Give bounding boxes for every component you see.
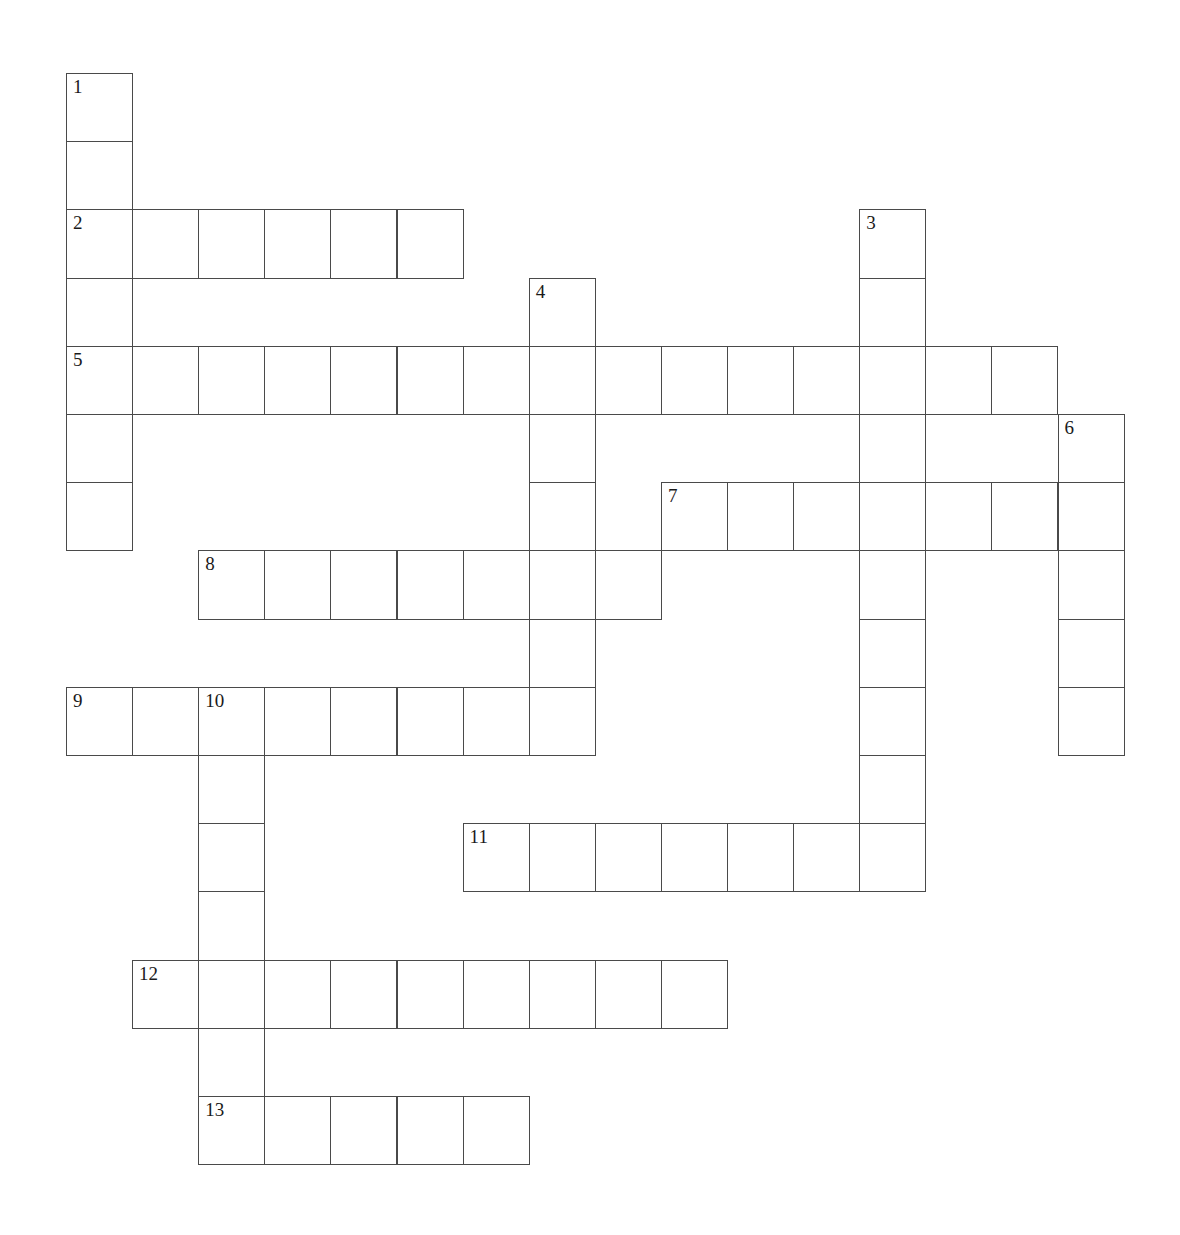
crossword-cell[interactable]	[264, 687, 331, 756]
crossword-cell[interactable]: 4	[529, 278, 596, 347]
cell-number: 6	[1065, 418, 1075, 437]
crossword-cell[interactable]	[330, 960, 397, 1029]
crossword-cell[interactable]: 1	[66, 73, 133, 142]
crossword-cell[interactable]	[661, 960, 728, 1029]
crossword-cell[interactable]	[1058, 687, 1125, 756]
crossword-cell[interactable]	[66, 278, 133, 347]
crossword-cell[interactable]	[66, 414, 133, 483]
crossword-cell[interactable]: 10	[198, 687, 265, 756]
crossword-cell[interactable]	[595, 346, 662, 415]
crossword-cell[interactable]	[397, 550, 464, 619]
crossword-cell[interactable]: 9	[66, 687, 133, 756]
crossword-cell[interactable]	[264, 550, 331, 619]
crossword-cell[interactable]	[264, 960, 331, 1029]
cell-number: 12	[139, 964, 158, 983]
crossword-cell[interactable]	[463, 550, 530, 619]
crossword-cell[interactable]	[397, 346, 464, 415]
crossword-cell[interactable]	[198, 960, 265, 1029]
crossword-cell[interactable]	[463, 1096, 530, 1165]
crossword-cell[interactable]	[991, 482, 1058, 551]
crossword-cell[interactable]	[529, 346, 596, 415]
crossword-cell[interactable]	[264, 209, 331, 278]
cell-number: 4	[536, 282, 546, 301]
crossword-cell[interactable]	[859, 278, 926, 347]
crossword-cell[interactable]	[330, 550, 397, 619]
cell-number: 7	[668, 486, 678, 505]
crossword-cell[interactable]	[859, 687, 926, 756]
crossword-cell[interactable]: 7	[661, 482, 728, 551]
cell-number: 9	[73, 691, 83, 710]
crossword-cell[interactable]	[132, 687, 199, 756]
crossword-cell[interactable]	[859, 482, 926, 551]
crossword-cell[interactable]	[793, 823, 860, 892]
crossword-cell[interactable]: 13	[198, 1096, 265, 1165]
crossword-cell[interactable]	[264, 346, 331, 415]
crossword-cell[interactable]	[198, 209, 265, 278]
crossword-cell[interactable]	[1058, 482, 1125, 551]
crossword-cell[interactable]	[1058, 550, 1125, 619]
crossword-cell[interactable]	[132, 346, 199, 415]
crossword-cell[interactable]	[198, 891, 265, 960]
crossword-cell[interactable]	[397, 1096, 464, 1165]
crossword-cell[interactable]: 6	[1058, 414, 1125, 483]
crossword-cell[interactable]	[859, 619, 926, 688]
crossword-cell[interactable]: 5	[66, 346, 133, 415]
crossword-cell[interactable]	[859, 550, 926, 619]
crossword-cell[interactable]	[463, 687, 530, 756]
crossword-cell[interactable]	[397, 687, 464, 756]
crossword-cell[interactable]	[793, 346, 860, 415]
crossword-cell[interactable]	[529, 482, 596, 551]
crossword-cell[interactable]	[529, 619, 596, 688]
crossword-cell[interactable]	[132, 209, 199, 278]
crossword-cell[interactable]	[1058, 619, 1125, 688]
crossword-cell[interactable]	[397, 209, 464, 278]
crossword-cell[interactable]	[66, 482, 133, 551]
crossword-cell[interactable]	[330, 346, 397, 415]
crossword-cell[interactable]	[529, 414, 596, 483]
crossword-cell[interactable]	[330, 687, 397, 756]
crossword-cell[interactable]: 12	[132, 960, 199, 1029]
crossword-cell[interactable]	[595, 960, 662, 1029]
crossword-cell[interactable]	[727, 823, 794, 892]
crossword-cell[interactable]	[859, 346, 926, 415]
crossword-grid: 12345678910111213	[0, 0, 1180, 1235]
crossword-cell[interactable]	[66, 141, 133, 210]
crossword-cell[interactable]	[595, 823, 662, 892]
crossword-cell[interactable]	[198, 346, 265, 415]
crossword-cell[interactable]	[925, 482, 992, 551]
crossword-cell[interactable]	[397, 960, 464, 1029]
crossword-cell[interactable]	[859, 823, 926, 892]
crossword-cell[interactable]	[859, 755, 926, 824]
crossword-cell[interactable]	[991, 346, 1058, 415]
crossword-cell[interactable]: 2	[66, 209, 133, 278]
crossword-cell[interactable]	[661, 823, 728, 892]
crossword-cell[interactable]	[463, 960, 530, 1029]
crossword-cell[interactable]: 8	[198, 550, 265, 619]
crossword-cell[interactable]	[330, 209, 397, 278]
cell-number: 8	[205, 554, 215, 573]
crossword-cell[interactable]	[727, 346, 794, 415]
crossword-cell[interactable]	[529, 550, 596, 619]
crossword-cell[interactable]	[330, 1096, 397, 1165]
cell-number: 10	[205, 691, 224, 710]
crossword-cell[interactable]	[793, 482, 860, 551]
crossword-cell[interactable]	[661, 346, 728, 415]
crossword-cell[interactable]	[529, 823, 596, 892]
cell-number: 13	[205, 1100, 224, 1119]
crossword-cell[interactable]: 3	[859, 209, 926, 278]
crossword-cell[interactable]	[198, 823, 265, 892]
crossword-cell[interactable]	[198, 755, 265, 824]
crossword-cell[interactable]	[859, 414, 926, 483]
cell-number: 11	[470, 827, 488, 846]
cell-number: 2	[73, 213, 83, 232]
crossword-cell[interactable]	[925, 346, 992, 415]
crossword-cell[interactable]	[529, 960, 596, 1029]
crossword-cell[interactable]	[264, 1096, 331, 1165]
crossword-cell[interactable]	[463, 346, 530, 415]
crossword-cell[interactable]: 11	[463, 823, 530, 892]
crossword-cell[interactable]	[198, 1028, 265, 1097]
crossword-cell[interactable]	[595, 550, 662, 619]
crossword-cell[interactable]	[727, 482, 794, 551]
crossword-cell[interactable]	[529, 687, 596, 756]
cell-number: 5	[73, 350, 83, 369]
